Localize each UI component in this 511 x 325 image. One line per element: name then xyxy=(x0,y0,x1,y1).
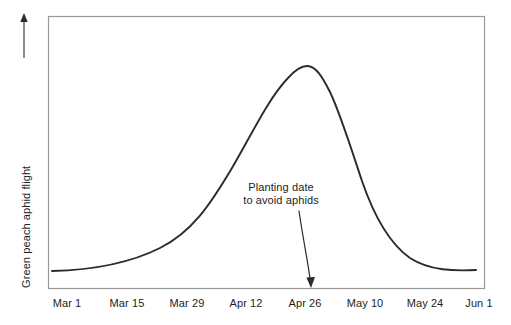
x-tick-label-mar-29: Mar 29 xyxy=(157,297,217,309)
annotation-line-1: Planting date xyxy=(221,181,341,194)
chart-container: Green peach aphid flight Mar 1 Mar 15 Ma… xyxy=(0,0,511,325)
x-tick-label-apr-12: Apr 12 xyxy=(216,297,276,309)
x-tick-label-mar-15: Mar 15 xyxy=(97,297,157,309)
plot-frame xyxy=(49,17,485,289)
chart-graphic xyxy=(0,0,511,325)
planting-date-annotation: Planting date to avoid aphids xyxy=(221,181,341,207)
y-axis-title: Green peach aphid flight xyxy=(20,166,32,288)
y-axis-direction-arrow xyxy=(20,13,27,58)
x-tick-label-may-10: May 10 xyxy=(335,297,395,309)
x-tick-label-apr-26: Apr 26 xyxy=(275,297,335,309)
annotation-line-2: to avoid aphids xyxy=(221,194,341,207)
x-tick-label-may-24: May 24 xyxy=(395,297,455,309)
x-tick-label-jun-1: Jun 1 xyxy=(449,297,509,309)
x-tick-label-mar-1: Mar 1 xyxy=(37,297,97,309)
